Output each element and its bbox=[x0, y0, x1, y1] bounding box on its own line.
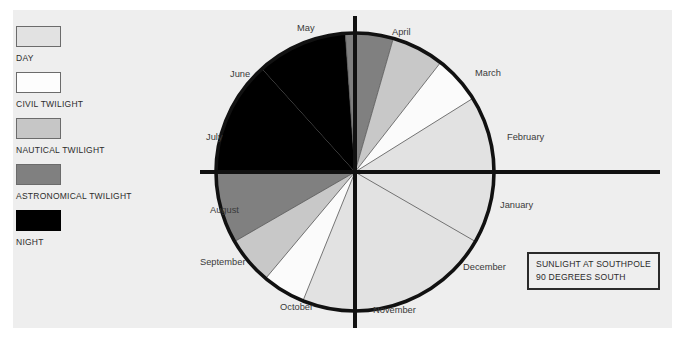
legend-label-nautical-twilight: NAUTICAL TWILIGHT bbox=[16, 145, 196, 155]
legend-swatch-nautical-twilight bbox=[16, 118, 61, 139]
caption-line-2: 90 DEGREES SOUTH bbox=[536, 271, 651, 284]
month-label-february: February bbox=[507, 132, 545, 142]
month-label-august: August bbox=[210, 205, 239, 215]
legend-label-civil-twilight: CIVIL TWILIGHT bbox=[16, 99, 196, 109]
legend-label-day: DAY bbox=[16, 53, 196, 63]
legend: DAY CIVIL TWILIGHT NAUTICAL TWILIGHT AST… bbox=[16, 26, 196, 256]
month-label-april: April bbox=[392, 27, 411, 37]
month-label-november: November bbox=[373, 305, 416, 315]
caption-line-1: SUNLIGHT AT SOUTHPOLE bbox=[536, 258, 651, 271]
legend-swatch-astronomical-twilight bbox=[16, 164, 61, 185]
legend-item-nautical-twilight: NAUTICAL TWILIGHT bbox=[16, 118, 196, 155]
legend-swatch-night bbox=[16, 210, 61, 231]
caption-box: SUNLIGHT AT SOUTHPOLE 90 DEGREES SOUTH bbox=[527, 252, 660, 290]
month-label-january: January bbox=[500, 200, 533, 210]
month-label-september: September bbox=[200, 257, 245, 267]
month-label-may: May bbox=[297, 23, 315, 33]
month-label-october: October bbox=[280, 302, 313, 312]
month-label-december: December bbox=[463, 262, 506, 272]
legend-label-astronomical-twilight: ASTRONOMICAL TWILIGHT bbox=[16, 191, 196, 201]
legend-item-astronomical-twilight: ASTRONOMICAL TWILIGHT bbox=[16, 164, 196, 201]
month-label-march: March bbox=[475, 68, 501, 78]
legend-item-day: DAY bbox=[16, 26, 196, 63]
legend-item-night: NIGHT bbox=[16, 210, 196, 247]
legend-label-night: NIGHT bbox=[16, 237, 196, 247]
month-label-june: June bbox=[230, 69, 250, 79]
month-label-july: July bbox=[206, 132, 223, 142]
legend-swatch-day bbox=[16, 26, 61, 47]
legend-swatch-civil-twilight bbox=[16, 72, 61, 93]
legend-item-civil-twilight: CIVIL TWILIGHT bbox=[16, 72, 196, 109]
sunlight-southpole-figure: DAY CIVIL TWILIGHT NAUTICAL TWILIGHT AST… bbox=[0, 0, 684, 345]
